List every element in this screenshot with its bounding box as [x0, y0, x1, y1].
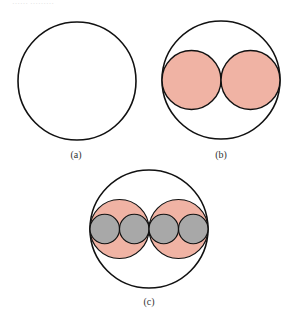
- panel-label-b: (b): [215, 149, 227, 161]
- small-circle-c-1: [90, 214, 120, 244]
- panel-label-c: (c): [143, 296, 154, 308]
- nested-circles-figure: (a) (b) (c): [0, 0, 299, 315]
- outer-circle-a: [18, 22, 136, 140]
- small-circle-c-2: [120, 214, 150, 244]
- panel-a: (a): [18, 22, 136, 161]
- small-circle-c-3: [149, 214, 179, 244]
- small-circle-c-4: [179, 214, 209, 244]
- panel-b: (b): [162, 21, 280, 161]
- inner-circle-b-left: [162, 51, 221, 110]
- panel-label-a: (a): [70, 149, 81, 161]
- panel-c: (c): [90, 170, 208, 308]
- inner-circle-b-right: [221, 51, 280, 110]
